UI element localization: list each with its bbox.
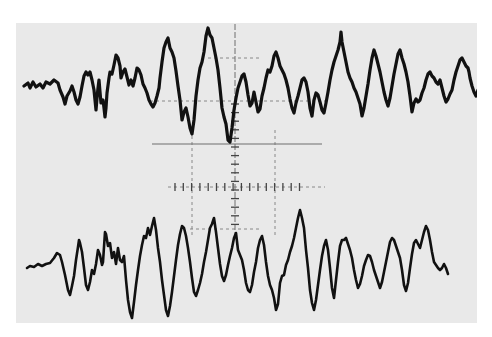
oscilloscope-photo (0, 0, 492, 337)
